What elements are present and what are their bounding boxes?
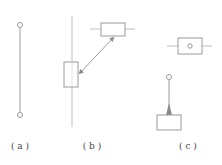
panel-b: ( b ) <box>64 16 135 151</box>
joint-triangle <box>166 103 172 115</box>
panel-a-label: ( a ) <box>11 141 29 151</box>
link-arrow <box>79 37 114 74</box>
panel-c-label: ( c ) <box>179 141 197 151</box>
bottom-pin-circle <box>18 113 23 118</box>
top-pin-circle <box>167 75 172 80</box>
center-pin-circle <box>188 44 192 48</box>
left-block <box>64 62 78 87</box>
top-block <box>101 23 125 36</box>
top-pin-circle <box>18 23 23 28</box>
diagram-canvas: ( a ) ( b ) ( c ) <box>0 0 222 165</box>
panel-a: ( a ) <box>11 23 29 152</box>
panel-c: ( c ) <box>157 38 212 151</box>
panel-b-label: ( b ) <box>83 141 102 151</box>
bottom-block <box>157 115 181 130</box>
